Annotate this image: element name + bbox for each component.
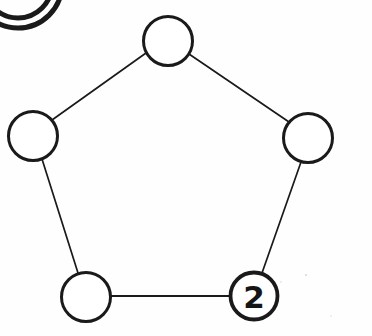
diagram-canvas: 2 — [0, 0, 372, 336]
scan-speck — [330, 315, 331, 316]
scan-speck — [280, 281, 282, 283]
node-circle[interactable] — [9, 112, 58, 161]
graph-node[interactable] — [9, 112, 58, 161]
node-circle[interactable] — [144, 17, 193, 66]
graph-node[interactable] — [144, 17, 193, 66]
scan-speck — [305, 274, 307, 276]
node-label: 2 — [243, 279, 265, 315]
graph-node[interactable] — [284, 114, 333, 163]
pentagon-graph-svg: 2 — [0, 0, 372, 336]
node-circle[interactable] — [62, 273, 111, 322]
graph-node[interactable] — [62, 273, 111, 322]
graph-node[interactable]: 2 — [231, 273, 278, 320]
node-circle[interactable] — [284, 114, 333, 163]
